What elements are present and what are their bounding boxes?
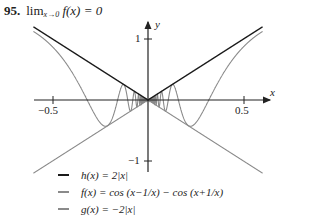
y-tick-label-pos: 1 [135,32,141,44]
legend-swatch-icon [58,191,69,193]
x-tick-label-pos: 0.5 [235,104,249,116]
y-axis-label: y [155,18,160,30]
x-tick-label-neg: −0.5 [38,104,58,116]
legend-item-h: h(x) = 2|x| [58,166,223,183]
legend: h(x) = 2|x| f(x) = cos (x−1/x) − cos (x+… [58,166,223,217]
legend-label: h(x) = 2|x| [81,169,128,181]
legend-label: f(x) = cos (x−1/x) − cos (x+1/x) [81,186,223,198]
legend-swatch-icon [58,208,69,210]
legend-swatch-icon [58,174,69,176]
y-tick-label-neg: −1 [128,154,140,166]
legend-item-g: g(x) = −2|x| [58,200,223,217]
x-axis-label: x [270,86,275,98]
legend-label: g(x) = −2|x| [81,203,135,215]
legend-item-f: f(x) = cos (x−1/x) − cos (x+1/x) [58,183,223,200]
